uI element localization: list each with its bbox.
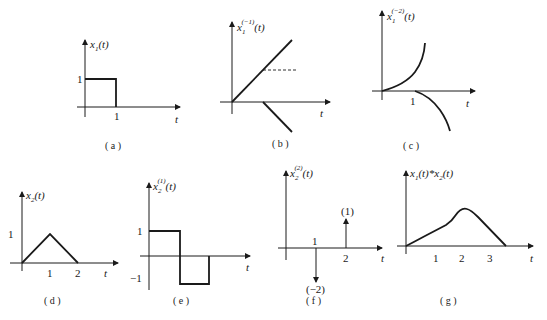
panel-a: x1(t) 1 1 t ( a ) <box>77 38 180 152</box>
x-tick-1: 1 <box>114 110 120 122</box>
triangle-pulse <box>22 234 78 263</box>
negative-ramp-line <box>263 102 292 132</box>
caption-c: ( c ) <box>403 140 419 152</box>
parabola-up <box>382 43 425 91</box>
caption-g: ( g ) <box>440 295 457 307</box>
panel-c: x1(−2)(t) 1 t ( c ) <box>372 7 475 152</box>
x-tick-1: 1 <box>410 95 416 107</box>
x-tick-3: 3 <box>487 252 493 264</box>
x-tick-2: 2 <box>343 252 349 264</box>
caption-a: ( a ) <box>105 140 121 152</box>
y-tick-1: 1 <box>77 73 83 85</box>
y-tick-neg1: −1 <box>130 272 142 284</box>
x-tick-2: 2 <box>75 267 81 279</box>
x-axis-label: t <box>530 252 534 264</box>
caption-d: ( d ) <box>44 295 61 307</box>
y-axis-label: x1(t) <box>89 38 109 53</box>
caption-b: ( b ) <box>272 138 289 150</box>
x-axis-label: t <box>466 97 470 109</box>
y-axis-label: x2(2)(t) <box>289 164 313 182</box>
square-wave <box>149 231 209 284</box>
y-tick-1: 1 <box>137 225 143 237</box>
x-axis-label: t <box>175 113 179 125</box>
x-axis-label: t <box>246 261 250 273</box>
y-axis-label: x1(−1)(t) <box>236 18 265 36</box>
rect-pulse <box>85 79 116 107</box>
ramp-line <box>232 40 292 102</box>
signals-figure: x1(t) 1 1 t ( a ) x1(−1)(t) t ( b ) x1(−… <box>0 0 547 320</box>
x-axis-label: t <box>320 107 324 119</box>
y-tick-1: 1 <box>8 228 14 240</box>
y-axis-label: x2(1)(t) <box>152 177 176 195</box>
convolution-curve <box>406 209 506 246</box>
caption-f: ( f ) <box>306 295 321 307</box>
y-axis-label: x1(t)*x2(t) <box>409 167 453 182</box>
x-tick-1: 1 <box>312 235 318 247</box>
panel-g: x1(t)*x2(t) 1 2 3 t ( g ) <box>397 167 534 307</box>
panel-b: x1(−1)(t) t ( b ) <box>220 18 330 150</box>
caption-e: ( e ) <box>173 295 189 307</box>
x-tick-1: 1 <box>433 252 439 264</box>
x-axis-label: t <box>104 267 108 279</box>
panel-d: x2(t) 1 1 2 t ( d ) <box>8 189 118 307</box>
impulse-label-pos1: (1) <box>341 205 354 218</box>
x-axis-label: t <box>381 252 385 264</box>
x-tick-2: 2 <box>459 252 465 264</box>
panel-f: x2(2)(t) 1 2 (1) (−2) t ( f ) <box>278 164 385 307</box>
parabola-down <box>415 91 450 131</box>
panel-e: x2(1)(t) 1 −1 t ( e ) <box>130 177 250 307</box>
y-axis-label: x2(t) <box>25 189 45 204</box>
x-tick-1: 1 <box>47 267 53 279</box>
y-axis-label: x1(−2)(t) <box>386 7 415 25</box>
